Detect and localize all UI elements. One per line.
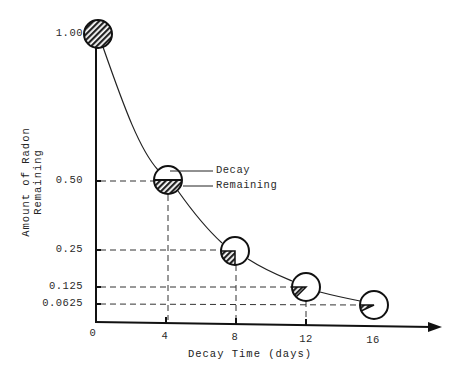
radon-decay-chart (0, 0, 461, 384)
x-label-0: 0 (78, 327, 108, 339)
x-label-8: 8 (220, 331, 250, 343)
marker-0.125 (292, 273, 320, 301)
y-axis-title: Amount of Radon Remaining (20, 102, 44, 262)
y-label-0.125: 0.125 (3, 280, 83, 292)
x-axis-title: Decay Time (days) (150, 348, 350, 360)
y-label-1.00: 1.00 (3, 27, 83, 39)
marker-0.0625 (360, 291, 388, 319)
marker-0.50 (154, 166, 182, 194)
x-axis-arrow (428, 322, 442, 332)
annotation-decay: Decay (216, 164, 250, 176)
x-label-4: 4 (150, 330, 180, 342)
marker-1.00 (84, 20, 112, 48)
y-label-0.0625: 0.0625 (3, 297, 83, 309)
x-label-12: 12 (291, 333, 321, 345)
annotation-remaining: Remaining (216, 179, 277, 191)
marker-0.25 (221, 237, 249, 265)
x-label-16: 16 (358, 334, 388, 346)
